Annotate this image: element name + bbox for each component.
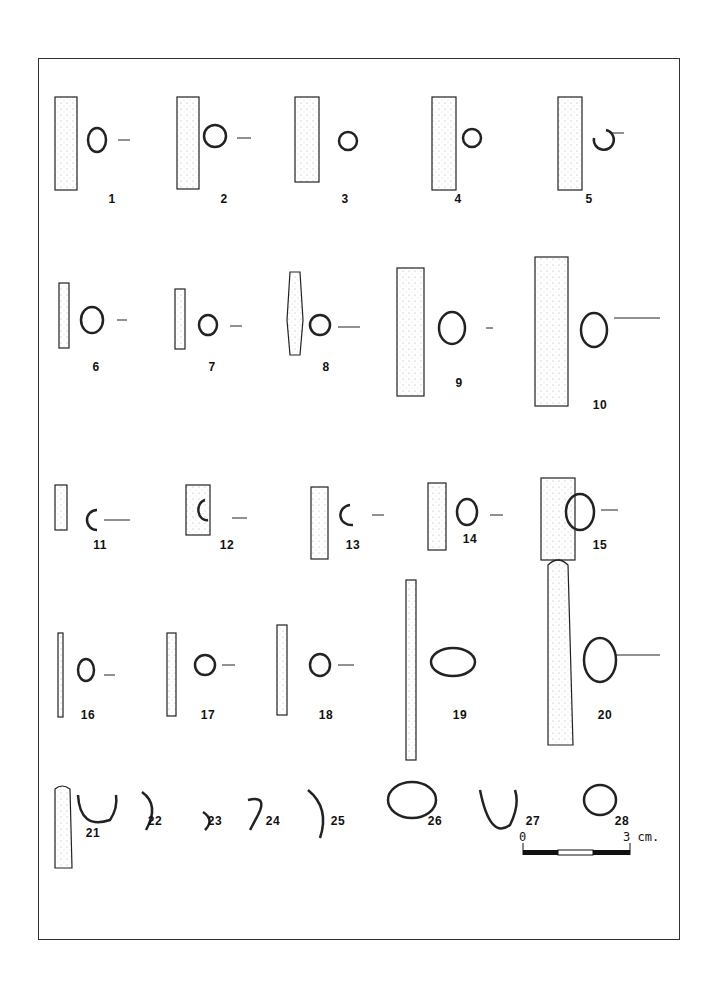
item-number-label: 8	[322, 360, 329, 374]
item-number-label: 4	[454, 192, 461, 206]
item-number-label: 16	[81, 708, 95, 722]
scale-end-label: 3 cm.	[623, 830, 659, 844]
item-number-label: 15	[593, 538, 607, 552]
item-number-label: 23	[208, 814, 222, 828]
item-number-label: 11	[93, 538, 107, 552]
item-number-label: 27	[526, 814, 540, 828]
item-number-label: 24	[266, 814, 280, 828]
item-number-label: 25	[331, 814, 345, 828]
item-number-label: 6	[92, 360, 99, 374]
item-number-label: 28	[615, 814, 629, 828]
item-number-label: 2	[220, 192, 227, 206]
scale-start-label: 0	[519, 830, 526, 844]
item-number-label: 21	[86, 826, 100, 840]
item-number-label: 9	[455, 376, 462, 390]
item-number-label: 12	[220, 538, 234, 552]
scale-bar	[523, 843, 630, 855]
item-number-label: 10	[593, 398, 607, 412]
item-number-label: 19	[453, 708, 467, 722]
item-number-label: 3	[341, 192, 348, 206]
item-number-label: 5	[585, 192, 592, 206]
item-number-label: 20	[598, 708, 612, 722]
artifact-drawings	[0, 0, 719, 991]
item-number-label: 22	[148, 814, 162, 828]
item-number-label: 7	[208, 360, 215, 374]
item-number-label: 17	[201, 708, 215, 722]
item-number-label: 1	[108, 192, 115, 206]
item-number-label: 13	[346, 538, 360, 552]
item-number-label: 14	[463, 532, 477, 546]
item-number-label: 18	[319, 708, 333, 722]
item-number-label: 26	[428, 814, 442, 828]
